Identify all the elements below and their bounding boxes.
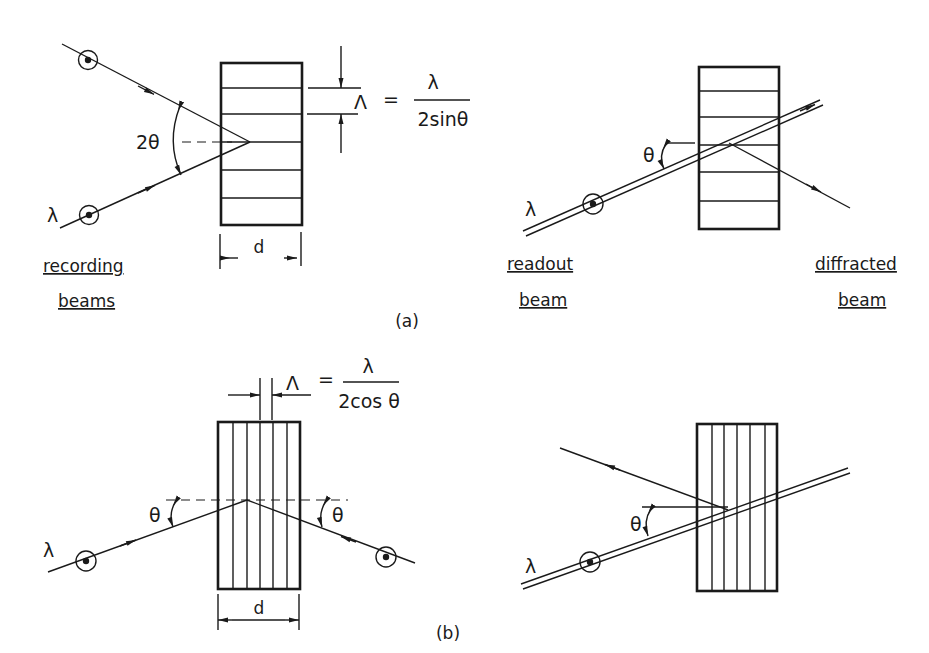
caption-readout: readout	[507, 254, 573, 274]
caption-diffracted: diffracted	[815, 254, 897, 274]
wavelength-label: λ	[525, 555, 536, 577]
polarization-dot-icon	[80, 206, 99, 225]
diffracted-beam	[560, 448, 728, 510]
diffracted-beam	[729, 143, 850, 208]
caption-readout-beam: beam	[519, 290, 567, 310]
equals-sign: =	[383, 88, 399, 110]
formula-numerator: λ	[362, 355, 373, 377]
panel-b-readout: θ λ	[521, 424, 850, 591]
readout-beam-double-line	[521, 468, 850, 589]
caption-recording: recording	[43, 256, 124, 276]
hologram-block-horizontal-fringes	[221, 63, 302, 225]
caption-diffracted-beam: beam	[838, 290, 886, 310]
caption-beams: beams	[58, 291, 115, 311]
angle-label-theta-right: θ	[332, 504, 344, 526]
angle-arc-theta-left	[171, 501, 176, 527]
formula-denominator: 2sinθ	[418, 108, 469, 130]
panel-a-recording: 2θ λ Λ = λ 2sinθ d recording beams	[43, 44, 470, 311]
angle-label-theta: θ	[630, 513, 642, 535]
angle-arc-theta	[646, 509, 651, 536]
wavelength-label: λ	[525, 198, 536, 220]
polarization-dot-icon	[376, 547, 396, 567]
wavelength-label: λ	[47, 204, 58, 226]
angle-arc-theta-right	[321, 501, 326, 527]
formula-denominator: 2cos θ	[338, 390, 400, 412]
wavelength-label: λ	[43, 539, 54, 561]
panel-b-recording: θ θ λ Λ = λ 2cos θ d	[43, 355, 415, 630]
panel-a-readout: θ λ readout beam diffracted beam	[507, 67, 897, 310]
angle-label-2theta: 2θ	[136, 131, 160, 153]
formula-numerator: λ	[427, 71, 438, 93]
polarization-dot-icon	[79, 51, 98, 70]
thickness-label: d	[254, 598, 265, 618]
angle-arc-theta	[661, 144, 666, 169]
hologram-diagram: 2θ λ Λ = λ 2sinθ d recording beams (a)	[0, 0, 929, 653]
angle-label-theta: θ	[643, 144, 655, 166]
thickness-label: d	[254, 237, 265, 257]
panel-tag-a: (a)	[395, 311, 419, 331]
equals-sign: =	[318, 368, 334, 390]
period-dimension	[307, 46, 361, 153]
angle-arc-2theta	[173, 106, 181, 175]
angle-label-theta-left: θ	[149, 504, 161, 526]
period-symbol: Λ	[354, 91, 367, 113]
period-symbol: Λ	[286, 372, 299, 394]
recording-beam-right	[247, 500, 415, 563]
panel-tag-b: (b)	[436, 623, 460, 643]
